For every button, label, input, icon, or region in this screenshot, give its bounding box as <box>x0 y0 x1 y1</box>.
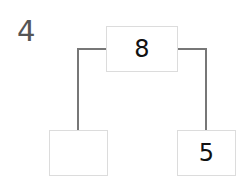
problem-number: 4 <box>17 14 35 48</box>
whole-box: 8 <box>106 26 178 72</box>
connector-left-horizontal <box>78 48 106 50</box>
part-left-box[interactable] <box>49 130 108 176</box>
connector-right-horizontal <box>177 48 206 50</box>
part-right-box: 5 <box>177 130 236 176</box>
connector-left-vertical <box>77 48 79 130</box>
connector-right-vertical <box>205 48 207 130</box>
